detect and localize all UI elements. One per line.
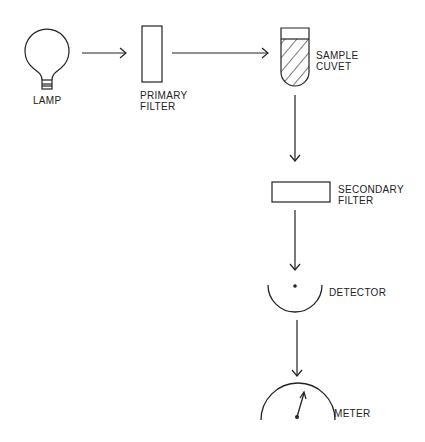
sample-cuvet-shape [281,28,309,87]
sample-cuvet-label-line1: SAMPLE [316,50,358,61]
lamp-icon [25,29,69,89]
primary-filter-shape [142,26,162,82]
primary-filter-label-line2: FILTER [140,101,176,112]
lamp-label: LAMP [33,95,61,106]
detector-label: DETECTOR [329,287,386,298]
diagram-canvas [0,0,425,442]
arrow-filter-to-cuvet [172,48,268,58]
meter-label: METER [334,408,371,419]
secondary-filter-label-line1: SECONDARY [338,184,404,195]
meter-icon [261,383,335,420]
detector-icon [268,284,322,312]
secondary-filter-shape [272,182,330,202]
secondary-filter-label-line2: FILTER [338,195,374,206]
primary-filter-label-line1: PRIMARY [140,90,187,101]
sample-cuvet-label-line2: CUVET [316,61,351,72]
arrow-detector-to-meter [292,320,302,376]
arrow-lamp-to-filter [82,48,126,58]
arrow-filter-to-detector [290,210,300,270]
arrow-cuvet-to-secondary-filter [290,95,300,161]
